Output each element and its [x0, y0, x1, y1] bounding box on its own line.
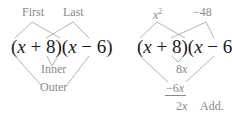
sum-rule-line: [165, 95, 186, 96]
outer-label: Outer: [40, 81, 67, 93]
sum-product: 2x: [176, 100, 187, 112]
add-note: Add.: [200, 100, 224, 112]
inner-product: 8x: [176, 63, 187, 75]
outer-product: −6x: [166, 82, 184, 94]
variable-x: x: [68, 36, 76, 57]
first-product: x2: [153, 6, 162, 21]
first-label: First: [22, 6, 44, 18]
binomial-product-expression: (x + 8)(x − 6): [11, 37, 113, 57]
last-product: −48: [193, 6, 212, 18]
inner-label: Inner: [41, 63, 66, 75]
variable-x: x: [194, 36, 202, 57]
outer-connector: [15, 56, 41, 85]
variable-x: x: [17, 36, 25, 57]
outer-connector-right: [140, 56, 168, 82]
variable-x: x: [143, 36, 151, 57]
last-label: Last: [63, 6, 84, 18]
binomial-product-expression-right: (x + 8)(x − 6): [137, 37, 232, 57]
